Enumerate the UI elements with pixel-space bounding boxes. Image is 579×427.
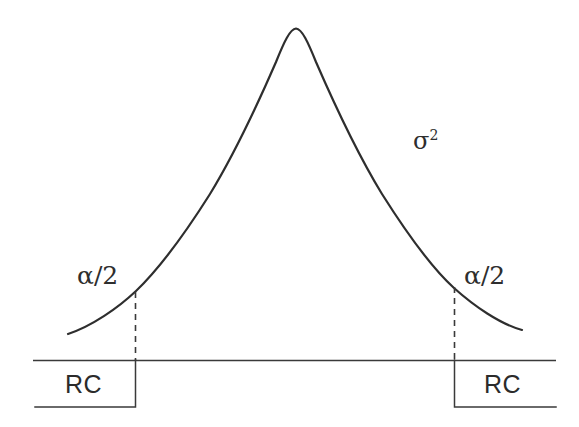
bell-curve-figure: α/2 α/2 σ2 RC RC [0, 0, 579, 427]
rc-left-label: RC [65, 372, 102, 397]
figure-canvas [0, 0, 579, 427]
sigma-squared-label: σ2 [413, 129, 438, 153]
rc-right-label: RC [484, 372, 521, 397]
alpha-half-left-label: α/2 [77, 263, 118, 288]
sigma-base: σ [413, 127, 429, 155]
sigma-exponent: 2 [429, 127, 438, 143]
alpha-half-right-label: α/2 [464, 263, 505, 288]
